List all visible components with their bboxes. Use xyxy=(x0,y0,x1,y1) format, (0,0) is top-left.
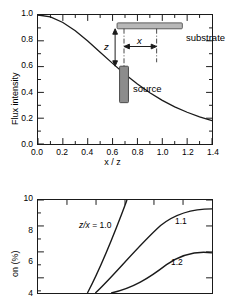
deviation-curve-1 xyxy=(87,200,127,293)
inset-z-label: z xyxy=(104,41,109,52)
bottom-y-axis-ticks xyxy=(38,200,212,291)
top-chart-panel: z x substrate source 0.00.20.40.60.81.01… xyxy=(0,0,225,180)
substrate-bar xyxy=(117,23,182,29)
top-x-tick-6: 1.2 xyxy=(176,148,200,157)
top-y-tick-4: 0.8 xyxy=(7,35,33,44)
inset-x-label: x xyxy=(137,35,142,46)
top-plot-area: z x substrate source xyxy=(37,14,213,145)
source-bar xyxy=(120,66,129,102)
bottom-chart-panel: z/x = 1.0 1.1 1.2 10864 on (%) xyxy=(0,185,225,280)
bottom-y-axis-title: on (%) xyxy=(10,250,20,277)
deviation-curve-3 xyxy=(111,252,212,293)
curve-label-1: z/x = 1.0 xyxy=(79,220,111,230)
geometry-inset: z x substrate source xyxy=(38,15,212,144)
z-dimension-arrow xyxy=(113,29,118,66)
bottom-y-tick-3: 4 xyxy=(7,289,33,298)
curve-label-2: 1.1 xyxy=(175,216,187,226)
inset-source-label: source xyxy=(133,83,162,94)
top-x-axis-title: x / z xyxy=(0,157,225,167)
top-x-tick-3: 0.6 xyxy=(100,148,124,157)
top-y-tick-5: 1.0 xyxy=(7,9,33,18)
top-y-tick-0: 0.0 xyxy=(7,140,33,149)
bottom-plot-area: z/x = 1.0 1.1 1.2 xyxy=(37,199,213,294)
curve-label-1-prefix: z/x xyxy=(79,220,90,230)
top-x-tick-5: 1.0 xyxy=(151,148,175,157)
top-y-tick-3: 0.6 xyxy=(7,61,33,70)
top-y-axis-title: Flux intensity xyxy=(10,72,20,125)
deviation-curve-2 xyxy=(95,209,212,293)
curve-label-3: 1.2 xyxy=(171,257,183,267)
top-x-tick-7: 1.4 xyxy=(201,148,225,157)
curve-label-1-suffix: = 1.0 xyxy=(90,220,112,230)
top-x-tick-1: 0.2 xyxy=(50,148,74,157)
bottom-y-tick-0: 10 xyxy=(7,194,33,203)
inset-substrate-label: substrate xyxy=(186,32,225,43)
top-x-tick-2: 0.4 xyxy=(75,148,99,157)
top-x-tick-0: 0.0 xyxy=(25,148,49,157)
bottom-y-tick-1: 8 xyxy=(7,226,33,235)
top-x-tick-4: 0.8 xyxy=(126,148,150,157)
bottom-plot-svg xyxy=(38,200,212,293)
